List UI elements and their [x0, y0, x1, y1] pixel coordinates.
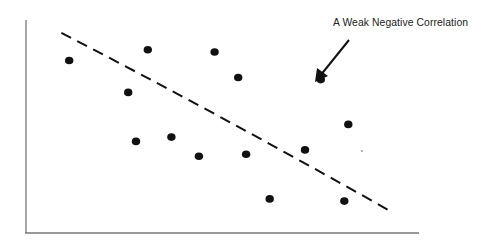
speck [361, 150, 363, 152]
data-points [65, 46, 352, 205]
data-point [195, 153, 203, 161]
data-point [65, 57, 73, 65]
trend-line-path [61, 33, 387, 210]
data-point [242, 150, 250, 158]
data-point [344, 121, 352, 129]
data-point [301, 146, 309, 154]
data-point [266, 195, 274, 203]
annotation-label: A Weak Negative Correlation [333, 16, 468, 28]
scatter-chart [0, 0, 485, 244]
data-point [234, 74, 242, 82]
data-point [167, 133, 175, 141]
annotation-arrow-icon [315, 40, 349, 82]
data-point [144, 46, 152, 54]
data-point [124, 89, 132, 97]
trend-line [61, 33, 387, 210]
data-point [340, 197, 348, 205]
data-point [210, 48, 218, 56]
data-point [132, 138, 140, 146]
